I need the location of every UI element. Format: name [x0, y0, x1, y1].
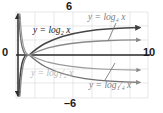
axis-label-bottom: –6	[64, 98, 76, 109]
axis-label-left-origin: 0	[2, 47, 8, 58]
axis-label-right: 10	[143, 47, 155, 58]
curve-label-log2: y = log₂ x	[33, 26, 70, 36]
curve-label-log-quarter: y = log₁⁄₄ x	[89, 81, 131, 91]
curve-label-log-half: y = log₁⁄₂ x	[31, 69, 73, 79]
logarithm-graph-figure	[0, 0, 163, 113]
curve-label-log4: y = log₄ x	[88, 13, 125, 23]
axis-label-top: 6	[66, 1, 72, 12]
